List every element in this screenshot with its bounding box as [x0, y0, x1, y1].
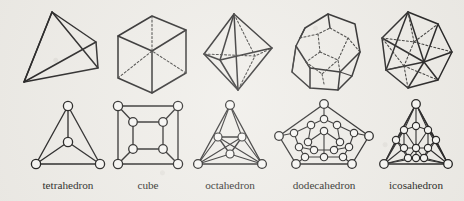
- octahedron-solid: [204, 14, 272, 90]
- label-icosahedron: icosahedron: [389, 179, 443, 191]
- label-octahedron: octahedron: [205, 179, 255, 191]
- icosahedron-graph: [380, 100, 453, 169]
- cube-graph: [113, 101, 182, 168]
- dodecahedron-graph: [275, 100, 374, 169]
- figure-canvas: tetrahedron cube octahedron dodecahedron…: [0, 0, 464, 201]
- label-tetrahedron: tetrahedron: [43, 179, 94, 191]
- octahedron-graph: [194, 101, 267, 169]
- platonic-solids-figure: tetrahedron cube octahedron dodecahedron…: [0, 0, 464, 201]
- cube-solid: [118, 16, 186, 93]
- tetrahedron-graph: [31, 101, 104, 168]
- icosahedron-solid: [382, 12, 452, 88]
- label-dodecahedron: dodecahedron: [293, 179, 356, 191]
- label-cube: cube: [137, 179, 158, 191]
- tetrahedron-solid: [24, 12, 98, 82]
- dodecahedron-solid: [292, 14, 360, 90]
